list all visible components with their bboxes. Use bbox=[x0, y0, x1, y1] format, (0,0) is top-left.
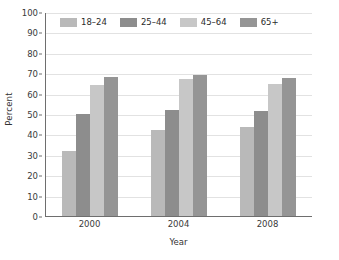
legend-item: 25–44 bbox=[120, 17, 167, 27]
y-axis-tick-label: 100 bbox=[22, 8, 38, 18]
bar-chart: Percent 0102030405060708090100 18–2425–4… bbox=[0, 0, 339, 260]
bar bbox=[240, 127, 254, 216]
bar bbox=[76, 114, 90, 216]
bar-group bbox=[223, 13, 312, 216]
legend: 18–2425–4445–6465+ bbox=[60, 17, 279, 27]
bar bbox=[151, 130, 165, 216]
y-axis-tick-label: 50 bbox=[27, 110, 38, 120]
bar bbox=[90, 85, 104, 216]
legend-item: 45–64 bbox=[180, 17, 227, 27]
y-axis-tick-mark bbox=[39, 94, 42, 95]
y-axis-tick-label: 0 bbox=[33, 212, 38, 222]
y-axis-tick-labels: 0102030405060708090100 bbox=[14, 13, 42, 217]
y-axis-tick-label: 30 bbox=[27, 151, 38, 161]
plot-area: 18–2425–4445–6465+ bbox=[45, 13, 312, 217]
y-axis-tick-label: 10 bbox=[27, 192, 38, 202]
legend-label: 25–44 bbox=[141, 17, 167, 27]
legend-swatch bbox=[240, 18, 257, 27]
legend-swatch bbox=[180, 18, 197, 27]
bar bbox=[254, 111, 268, 216]
bar-group bbox=[46, 13, 135, 216]
y-axis-tick-mark bbox=[39, 155, 42, 156]
bar-group bbox=[135, 13, 224, 216]
y-axis-tick-mark bbox=[39, 135, 42, 136]
bar bbox=[193, 75, 207, 216]
bar bbox=[165, 110, 179, 216]
y-axis-tick-mark bbox=[39, 74, 42, 75]
legend-label: 45–64 bbox=[201, 17, 227, 27]
y-axis-tick-mark bbox=[39, 33, 42, 34]
legend-label: 65+ bbox=[261, 17, 279, 27]
bar bbox=[179, 79, 193, 216]
bar bbox=[282, 78, 296, 216]
x-axis-tick-label: 2004 bbox=[134, 219, 223, 229]
y-axis-tick-mark bbox=[39, 13, 42, 14]
y-axis-tick-label: 70 bbox=[27, 69, 38, 79]
x-axis-tick-label: 2000 bbox=[45, 219, 134, 229]
x-axis-title: Year bbox=[45, 237, 312, 247]
bar bbox=[268, 84, 282, 216]
y-axis-tick-mark bbox=[39, 53, 42, 54]
y-axis-tick-mark bbox=[39, 217, 42, 218]
y-axis-tick-label: 40 bbox=[27, 130, 38, 140]
legend-swatch bbox=[60, 18, 77, 27]
bar bbox=[104, 77, 118, 216]
y-axis-tick-mark bbox=[39, 115, 42, 116]
bar bbox=[62, 151, 76, 216]
y-axis-tick-label: 90 bbox=[27, 28, 38, 38]
legend-label: 18–24 bbox=[81, 17, 107, 27]
legend-swatch bbox=[120, 18, 137, 27]
y-axis-tick-mark bbox=[39, 196, 42, 197]
legend-item: 18–24 bbox=[60, 17, 107, 27]
gridline bbox=[46, 217, 312, 218]
x-axis-tick-label: 2008 bbox=[223, 219, 312, 229]
bar-groups bbox=[46, 13, 312, 216]
y-axis-tick-label: 80 bbox=[27, 49, 38, 59]
y-axis-tick-label: 60 bbox=[27, 90, 38, 100]
x-axis-tick-labels: 200020042008 bbox=[45, 219, 312, 229]
y-axis-tick-label: 20 bbox=[27, 171, 38, 181]
y-axis-title-text: Percent bbox=[4, 92, 14, 125]
legend-item: 65+ bbox=[240, 17, 279, 27]
y-axis-tick-mark bbox=[39, 176, 42, 177]
